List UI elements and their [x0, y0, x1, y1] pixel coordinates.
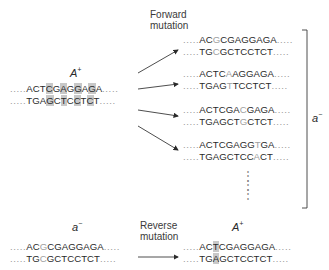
base: C: [219, 139, 226, 150]
reverse-to-genotype-label: A+: [232, 220, 243, 233]
base: T: [40, 83, 46, 94]
mutant-dna-3: .....ACTCGACGAGA..... .....TGAGCTGCTCT..…: [183, 104, 291, 128]
base: C: [46, 83, 53, 94]
bracket-genotype-label: a−: [312, 111, 322, 124]
base: G: [205, 151, 213, 162]
wildtype-top-strand: .....ACTCGAGGAGA.....: [10, 83, 118, 95]
base: G: [32, 253, 40, 264]
forward-mutation-label: Forward mutation: [150, 9, 188, 31]
reverse-from-genotype-label: a−: [72, 220, 82, 233]
seq: ACTCGAGGAGA: [26, 83, 102, 94]
base: C: [33, 83, 40, 94]
base: C: [87, 253, 94, 264]
mutant-dna-2: .....ACTCAAGGAGA..... .....TGAGTTCCTCT..…: [183, 68, 290, 92]
forward-arrow-3: [138, 110, 178, 116]
seq: TGAGCTCCTCT: [26, 95, 99, 106]
reverse-mutation-label: Reverse mutation: [140, 220, 178, 242]
base: C: [227, 151, 234, 162]
base: G: [247, 104, 255, 115]
base: C: [33, 241, 40, 252]
base: G: [219, 151, 227, 162]
base: G: [219, 116, 227, 127]
base: C: [213, 46, 220, 57]
mutant-dna-1: .....ACGCGAGGAGA..... .....TGCGCTCCTCT..…: [183, 34, 293, 58]
base: G: [205, 116, 213, 127]
base: C: [206, 34, 213, 45]
base: G: [54, 241, 62, 252]
base: C: [206, 139, 213, 150]
base: C: [219, 104, 226, 115]
base: C: [246, 80, 253, 91]
more-mutants-ellipsis: ⋮⋮⋮: [242, 172, 254, 199]
base: C: [260, 46, 267, 57]
base: C: [260, 253, 267, 264]
base: C: [247, 253, 254, 264]
base: G: [205, 46, 213, 57]
base: T: [81, 95, 87, 106]
wildtype-dna: .....ACTCGAGGAGA..... .....TGAGCTCCTCT..…: [10, 83, 118, 107]
base: C: [206, 241, 213, 252]
base: G: [261, 139, 269, 150]
base: G: [205, 80, 213, 91]
wildtype-bottom-strand: .....TGAGCTCCTCT.....: [10, 95, 118, 107]
base: C: [227, 253, 234, 264]
base: C: [260, 151, 267, 162]
base: C: [260, 116, 267, 127]
forward-arrow-2: [138, 84, 178, 89]
base: G: [219, 253, 227, 264]
base: C: [219, 241, 226, 252]
base: G: [227, 34, 235, 45]
reverse-to-dna: .....ACTCGAGGAGA..... .....TGAGCTCCTCT..…: [183, 241, 291, 265]
wildtype-genotype-label: A+: [70, 66, 81, 79]
base: G: [261, 104, 269, 115]
base: C: [247, 151, 254, 162]
base: G: [247, 139, 255, 150]
base: C: [219, 68, 226, 79]
base: C: [227, 116, 234, 127]
base: C: [206, 68, 213, 79]
base: C: [240, 151, 247, 162]
forward-arrow-4: [138, 126, 178, 150]
base: C: [206, 104, 213, 115]
base: C: [240, 253, 247, 264]
base: G: [260, 68, 268, 79]
base: G: [32, 95, 40, 106]
base: C: [74, 95, 81, 106]
base: G: [241, 34, 249, 45]
base: G: [46, 95, 54, 106]
base: G: [247, 241, 255, 252]
base: G: [246, 68, 254, 79]
reverse-from-dna: .....ACGCGAGGAGA..... .....TGCGCTCCTCT..…: [10, 241, 120, 265]
base: C: [54, 95, 61, 106]
base: G: [88, 83, 96, 94]
base: C: [240, 104, 247, 115]
forward-arrow-1: [138, 50, 178, 73]
base: C: [239, 80, 246, 91]
base: G: [219, 80, 227, 91]
a-minus-bracket: [302, 30, 307, 208]
base: G: [239, 68, 247, 79]
base: C: [87, 95, 94, 106]
mutant-dna-4: .....ACTCGAGGTGA..... .....TGAGCTCCACT..…: [183, 139, 291, 163]
base: C: [40, 253, 47, 264]
base: G: [68, 241, 76, 252]
base: G: [205, 253, 213, 264]
base: C: [67, 95, 74, 106]
base: G: [261, 241, 269, 252]
base: G: [74, 83, 82, 94]
